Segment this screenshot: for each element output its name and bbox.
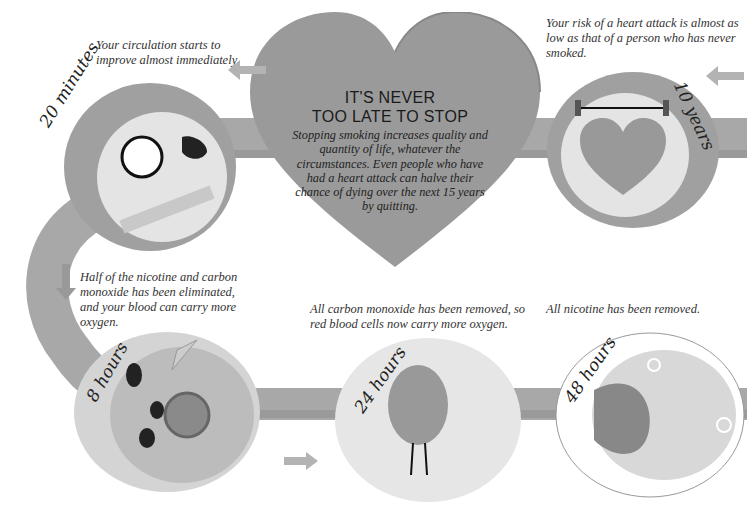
- stage-caption: Your risk of a heart attack is almost as…: [546, 16, 746, 61]
- stage-10-years-circle: [545, 70, 725, 235]
- heart-body-text: Stopping smoking increases quality and q…: [290, 128, 490, 214]
- arrow-left-icon: [706, 66, 744, 86]
- stage-24-hours-circle: [333, 335, 523, 505]
- blood-cell-character-icon: [388, 365, 448, 445]
- arrow-right-icon: [284, 452, 318, 470]
- arrow-down-icon: [56, 264, 76, 300]
- stage-caption: Half of the nicotine and carbon monoxide…: [80, 270, 250, 330]
- stage-caption: All nicotine has been removed.: [546, 302, 746, 317]
- gauge-icon: [122, 137, 162, 177]
- stage-caption: Your circulation starts to improve almos…: [96, 38, 246, 68]
- title-line-2: TOO LATE TO STOP: [270, 107, 510, 126]
- arrow-left-icon: [228, 60, 266, 80]
- stage-20-minutes-circle: [62, 82, 237, 252]
- heart-title: IT'S NEVER TOO LATE TO STOP: [270, 88, 510, 126]
- stage-caption: All carbon monoxide has been removed, so…: [310, 302, 530, 332]
- stage-8-hours-circle: [72, 330, 262, 495]
- stage-48-hours-circle: [554, 330, 747, 500]
- blood-cell-icon: [165, 393, 209, 437]
- title-line-1: IT'S NEVER: [270, 88, 510, 107]
